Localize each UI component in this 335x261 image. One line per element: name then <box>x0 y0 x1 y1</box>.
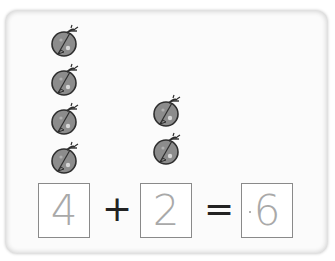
addend1-box: 4 <box>38 183 90 238</box>
sum-value: 6 <box>254 186 281 235</box>
plus-sign: + <box>102 188 132 229</box>
ladybug-icon <box>50 24 80 58</box>
addend1-value: 4 <box>51 186 78 235</box>
addend2-box: 2 <box>140 183 192 238</box>
equals-sign: = <box>204 188 234 229</box>
ladybug-icon <box>152 94 182 128</box>
trace-start-dot <box>249 211 251 213</box>
ladybug-icon <box>50 63 80 97</box>
ladybug-icon <box>50 102 80 136</box>
ladybug-icon <box>50 141 80 175</box>
addend2-value: 2 <box>153 186 180 235</box>
ladybug-icon <box>152 132 182 166</box>
